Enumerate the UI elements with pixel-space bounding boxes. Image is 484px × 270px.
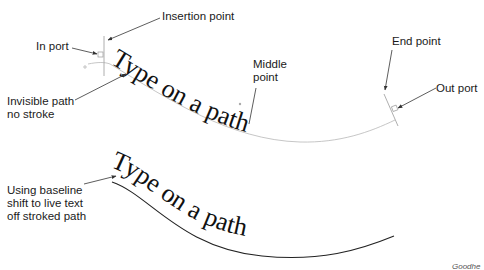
invisible-path-leader [75, 74, 126, 100]
baseline-shift-leader [84, 176, 116, 184]
end-point-leader [385, 50, 392, 90]
out-port-marker [391, 105, 397, 111]
diagram-canvas: Type on a path Type on a path Insertion … [0, 0, 484, 270]
label-end-point: End point [392, 35, 441, 48]
out-port-leader [398, 88, 436, 108]
middle-point-marker [239, 103, 241, 105]
bottom-example: Type on a path [84, 145, 394, 257]
middle-point-leader [249, 88, 256, 124]
path-start-handle [84, 66, 86, 68]
end-point-marker [384, 94, 398, 126]
in-port-leader [72, 48, 97, 54]
label-invisible-path: Invisible path no stroke [7, 95, 74, 121]
in-port-marker [98, 52, 103, 57]
label-middle-point: Middle point [253, 58, 287, 84]
label-in-port: In port [36, 40, 69, 53]
bottom-path-text: Type on a path [108, 145, 250, 241]
insertion-point-leader [108, 18, 160, 40]
credit-text: Goodhe [452, 262, 480, 270]
top-path-text: Type on a path [107, 43, 253, 137]
label-out-port: Out port [436, 82, 478, 95]
label-insertion-point: Insertion point [162, 10, 234, 23]
label-baseline-shift: Using baseline shift to live text off st… [7, 184, 86, 223]
